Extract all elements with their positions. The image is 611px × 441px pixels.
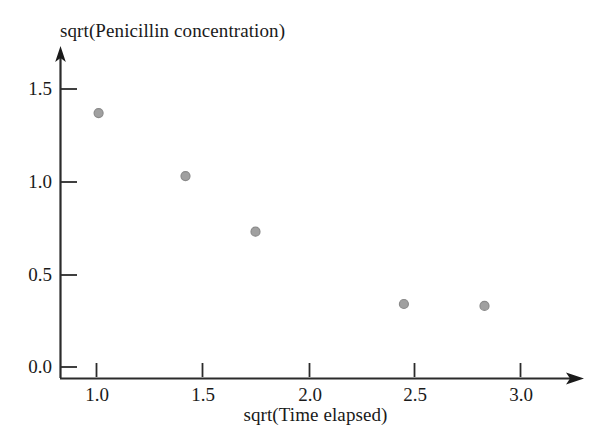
x-axis-title-text: sqrt(Time elapsed) xyxy=(243,404,387,426)
y-ticks-group xyxy=(61,89,77,367)
x-tick-label-1.0: 1.0 xyxy=(85,384,109,406)
x-tick-label-2.5: 2.5 xyxy=(403,384,427,406)
data-point xyxy=(480,301,489,310)
x-tick-label-3.0: 3.0 xyxy=(509,384,533,406)
y-tick-label-0.5: 0.5 xyxy=(8,264,52,286)
x-axis-title: sqrt(Time elapsed) xyxy=(0,404,611,426)
y-tick-label-0.0: 0.0 xyxy=(8,356,52,378)
y-tick-label-1.5: 1.5 xyxy=(8,78,52,100)
data-point xyxy=(94,109,103,118)
scatter-plot-figure: sqrt(Penicillin concentration) sqrt(Time… xyxy=(0,0,611,441)
plot-canvas xyxy=(0,0,611,441)
x-ticks-group xyxy=(97,363,521,377)
data-point xyxy=(399,300,408,309)
axes-group xyxy=(55,46,584,385)
x-tick-label-1.5: 1.5 xyxy=(191,384,215,406)
data-point xyxy=(251,227,260,236)
y-tick-label-1.0: 1.0 xyxy=(8,171,52,193)
x-tick-label-2.0: 2.0 xyxy=(298,384,322,406)
y-axis-title: sqrt(Penicillin concentration) xyxy=(60,20,285,42)
data-point xyxy=(181,172,190,181)
data-points-group xyxy=(94,109,489,311)
